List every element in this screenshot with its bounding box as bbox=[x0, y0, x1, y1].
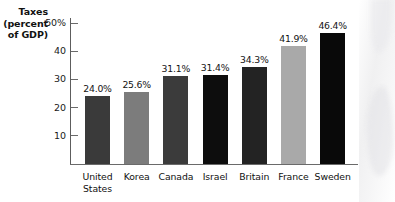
y-tick-10 bbox=[71, 135, 78, 136]
bar-value-label-britain: 34.3% bbox=[234, 54, 275, 65]
bar-france[interactable] bbox=[281, 46, 306, 164]
y-tick-50 bbox=[71, 23, 78, 24]
bar-value-label-canada: 31.1% bbox=[155, 63, 196, 74]
y-tick-30 bbox=[71, 79, 78, 80]
bar-value-label-france: 41.9% bbox=[273, 33, 314, 44]
bar-value-label-korea: 25.6% bbox=[116, 79, 157, 90]
bar-value-label-united-states: 24.0% bbox=[77, 83, 118, 94]
y-tick-label-30: 30 bbox=[22, 73, 66, 84]
y-tick-40 bbox=[71, 51, 78, 52]
y-tick-label-40: 40 bbox=[22, 45, 66, 56]
bar-korea[interactable] bbox=[124, 92, 149, 164]
y-tick-label-50: 50% bbox=[22, 17, 66, 28]
bar-value-label-sweden: 46.4% bbox=[312, 20, 353, 31]
bar-canada[interactable] bbox=[163, 76, 188, 164]
x-label-sweden: Sweden bbox=[310, 171, 355, 183]
bar-sweden[interactable] bbox=[320, 33, 345, 164]
plot-area: 1020304050% 24.0%25.6%31.1%31.4%34.3%41.… bbox=[0, 0, 395, 202]
y-axis-line bbox=[70, 18, 71, 165]
y-tick-20 bbox=[71, 107, 78, 108]
y-tick-label-20: 20 bbox=[22, 102, 66, 113]
bar-value-label-israel: 31.4% bbox=[195, 62, 236, 73]
bar-britain[interactable] bbox=[242, 67, 267, 164]
x-axis-line bbox=[70, 164, 358, 165]
bar-israel[interactable] bbox=[203, 75, 228, 164]
y-tick-label-10: 10 bbox=[22, 130, 66, 141]
bar-united-states[interactable] bbox=[85, 96, 110, 164]
tax-bar-chart: Taxes (percent of GDP) 1020304050% 24.0%… bbox=[0, 0, 395, 202]
